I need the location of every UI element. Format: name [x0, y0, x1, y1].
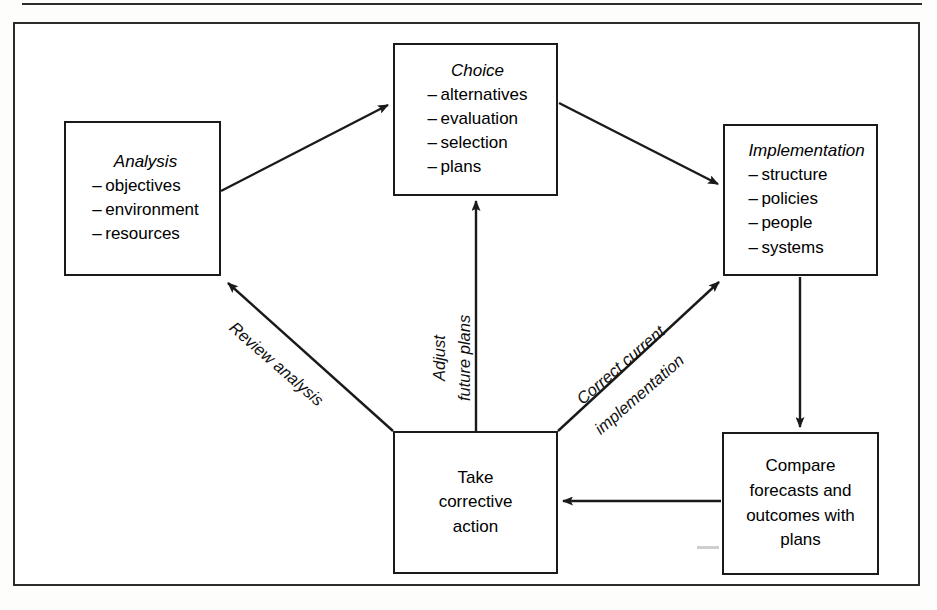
diagram-page: Analysis –objectives –environment –resou…: [0, 0, 937, 610]
dash-bullet: –: [428, 107, 441, 131]
node-compare-forecasts[interactable]: Compare forecasts and outcomes with plan…: [722, 432, 879, 575]
node-corrective-text: Take corrective action: [439, 466, 513, 540]
list-item: –selection: [428, 131, 528, 155]
list-item: –evaluation: [428, 107, 528, 131]
node-take-corrective-action[interactable]: Take corrective action: [393, 431, 558, 574]
list-item-label: evaluation: [441, 109, 519, 128]
list-item-label: resources: [105, 224, 180, 243]
dash-bullet: –: [748, 236, 761, 260]
list-item-label: people: [761, 213, 812, 232]
dash-bullet: –: [748, 211, 761, 235]
node-analysis-list: –objectives –environment –resources: [92, 174, 199, 246]
node-compare-line: forecasts and: [746, 479, 855, 504]
dash-bullet: –: [92, 222, 105, 246]
list-item: –objectives: [92, 174, 199, 198]
dash-bullet: –: [428, 131, 441, 155]
dash-bullet: –: [748, 187, 761, 211]
node-corrective-line: corrective: [439, 490, 513, 515]
list-item-label: policies: [761, 189, 818, 208]
list-item-label: objectives: [105, 176, 181, 195]
edge-label-future-plans: future plans: [455, 315, 474, 401]
list-item: –alternatives: [428, 83, 528, 107]
list-item: –policies: [748, 187, 864, 211]
edge-label-adjust: Adjust: [430, 335, 449, 381]
node-compare-line: plans: [746, 528, 855, 553]
list-item-label: systems: [761, 238, 823, 257]
list-item-label: selection: [441, 133, 508, 152]
dash-bullet: –: [428, 155, 441, 179]
node-choice-title: Choice: [428, 60, 528, 82]
node-compare-line: outcomes with: [746, 504, 855, 529]
list-item-label: structure: [761, 165, 827, 184]
node-corrective-line: action: [439, 515, 513, 540]
dash-bullet: –: [428, 83, 441, 107]
scan-speckle: [697, 546, 719, 549]
node-choice[interactable]: Choice –alternatives –evaluation –select…: [393, 43, 558, 196]
dash-bullet: –: [92, 198, 105, 222]
node-implementation-list: –structure –policies –people –systems: [748, 163, 864, 260]
list-item-label: environment: [105, 200, 199, 219]
node-choice-list: –alternatives –evaluation –selection –pl…: [428, 83, 528, 180]
dash-bullet: –: [748, 163, 761, 187]
list-item: –systems: [748, 236, 864, 260]
list-item: –structure: [748, 163, 864, 187]
node-compare-text: Compare forecasts and outcomes with plan…: [746, 454, 855, 553]
node-compare-line: Compare: [746, 454, 855, 479]
node-implementation[interactable]: Implementation –structure –policies –peo…: [723, 124, 878, 276]
node-analysis[interactable]: Analysis –objectives –environment –resou…: [64, 121, 221, 276]
list-item: –resources: [92, 222, 199, 246]
node-implementation-title: Implementation: [748, 140, 864, 162]
page-top-rule: [22, 3, 922, 5]
list-item: –people: [748, 211, 864, 235]
node-analysis-title: Analysis: [92, 151, 199, 173]
list-item: –environment: [92, 198, 199, 222]
list-item: –plans: [428, 155, 528, 179]
list-item-label: plans: [441, 157, 482, 176]
node-corrective-line: Take: [439, 466, 513, 491]
dash-bullet: –: [92, 174, 105, 198]
list-item-label: alternatives: [441, 85, 528, 104]
